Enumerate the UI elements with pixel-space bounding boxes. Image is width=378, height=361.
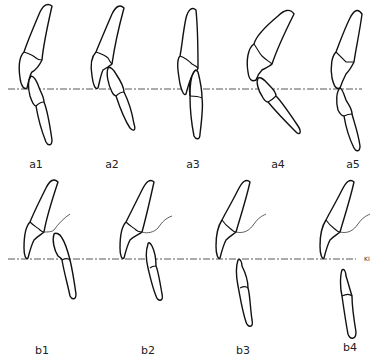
dental-occlusion-diagram: a1 a2 a3 a4 a5 b1 b2 b3 b4 KI xyxy=(0,0,378,361)
panel-label-b4: b4 xyxy=(343,341,357,354)
teeth-b3 xyxy=(216,180,266,326)
teeth-a2 xyxy=(91,6,135,130)
teeth-a3 xyxy=(178,8,203,138)
teeth-b4 xyxy=(320,180,370,338)
panel-label-a4: a4 xyxy=(271,158,285,171)
teeth-b2 xyxy=(120,180,172,300)
panel-label-a1: a1 xyxy=(29,158,43,171)
teeth-a5 xyxy=(331,11,362,151)
panel-label-a5: a5 xyxy=(346,158,360,171)
panel-label-b2: b2 xyxy=(141,344,155,357)
panel-label-b1: b1 xyxy=(35,344,49,357)
diagram-drawing xyxy=(0,0,378,361)
panel-label-a3: a3 xyxy=(186,158,200,171)
line-label-ki: KI xyxy=(364,255,370,262)
teeth-a4 xyxy=(247,10,300,133)
panel-label-a2: a2 xyxy=(105,158,119,171)
teeth-b1 xyxy=(24,180,76,299)
teeth-a1 xyxy=(19,4,52,144)
panel-label-b3: b3 xyxy=(236,344,250,357)
